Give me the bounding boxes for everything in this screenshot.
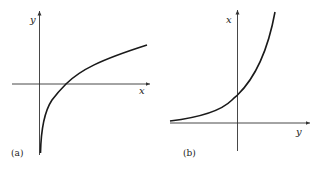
panel-a-label: (a) <box>11 148 23 158</box>
panel-b-exp-curve <box>170 12 275 121</box>
figure: y x (a) x y (b) <box>0 0 316 169</box>
panel-b-label: (b) <box>183 148 196 158</box>
panel-b: x y (b) <box>170 10 310 158</box>
panel-a: y x (a) <box>11 11 150 158</box>
panel-a-x-label: x <box>139 85 145 96</box>
panel-b-y-label: y <box>295 126 302 137</box>
panel-a-log-curve <box>41 45 148 153</box>
panel-b-x-label: x <box>226 14 232 25</box>
panel-a-y-label: y <box>29 14 36 25</box>
